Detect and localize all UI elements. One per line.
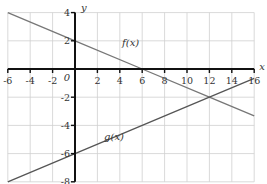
x-tick-label: 16 xyxy=(248,75,260,86)
series-label-f: f(x) xyxy=(121,37,139,48)
x-tick-label: 6 xyxy=(139,75,145,86)
y-axis-label: y xyxy=(80,2,87,13)
labels: -6-4-224681012141642-2-4-6-80xyf(x)g(x) xyxy=(3,2,265,184)
x-tick-label: 12 xyxy=(203,75,215,86)
x-tick-label: 8 xyxy=(162,75,168,86)
x-tick-label: 2 xyxy=(94,75,100,86)
x-axis-label: x xyxy=(259,61,265,72)
x-tick-label: 10 xyxy=(181,75,193,86)
y-tick-label: -2 xyxy=(61,92,70,103)
y-tick-label: 2 xyxy=(64,35,70,46)
y-tick-label: -4 xyxy=(61,120,70,131)
y-tick-label: -6 xyxy=(61,148,70,159)
origin-label: 0 xyxy=(64,72,71,83)
x-tick-label: -2 xyxy=(48,75,57,86)
series-label-g: g(x) xyxy=(104,131,124,142)
x-tick-label: 14 xyxy=(226,75,238,86)
y-tick-label: 4 xyxy=(64,7,70,18)
x-tick-label: 4 xyxy=(117,75,123,86)
line-chart: -6-4-224681012141642-2-4-6-80xyf(x)g(x) xyxy=(0,0,267,184)
series-line-f xyxy=(8,13,254,116)
y-tick-label: -8 xyxy=(61,176,70,184)
x-tick-label: -6 xyxy=(3,75,12,86)
x-tick-label: -4 xyxy=(26,75,35,86)
series-line-g xyxy=(8,78,254,181)
